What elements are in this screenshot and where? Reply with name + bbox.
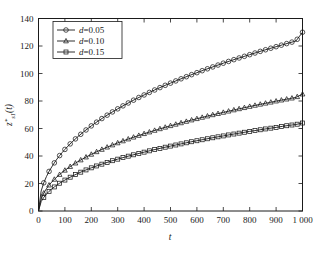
y-tick-label: 40 bbox=[25, 151, 35, 161]
x-tick-label: 0 bbox=[36, 215, 41, 225]
y-tick-label: 140 bbox=[20, 14, 34, 24]
y-label-argument: (t) bbox=[4, 104, 15, 113]
legend-label: d=0.15 bbox=[79, 47, 105, 57]
y-tick-label: 20 bbox=[25, 179, 35, 189]
x-axis-title: t bbox=[169, 232, 172, 242]
x-tick-label: 700 bbox=[217, 215, 231, 225]
chart-legend[interactable]: d=0.05d=0.10d=0.15 bbox=[53, 22, 122, 59]
x-tick-label: 600 bbox=[190, 215, 204, 225]
x-tick-label: 800 bbox=[243, 215, 257, 225]
legend-label: d=0.10 bbox=[79, 36, 105, 46]
y-tick-label: 60 bbox=[25, 124, 35, 134]
x-tick-label: 500 bbox=[164, 215, 178, 225]
line-chart: 020406080100120140 010020030040050060070… bbox=[0, 0, 324, 254]
y-tick-label: 100 bbox=[20, 69, 34, 79]
x-tick-label: 200 bbox=[85, 215, 99, 225]
x-tick-label: 300 bbox=[111, 215, 125, 225]
x-tick-label: 900 bbox=[269, 215, 283, 225]
x-tick-label: 1 000 bbox=[292, 215, 313, 225]
y-tick-label: 120 bbox=[20, 41, 34, 51]
legend-label: d=0.05 bbox=[79, 25, 105, 35]
x-axis-title-text: t bbox=[169, 232, 172, 242]
y-tick-label: 80 bbox=[25, 96, 35, 106]
chart-figure: 020406080100120140 010020030040050060070… bbox=[0, 0, 324, 254]
x-tick-label: 100 bbox=[58, 215, 72, 225]
x-tick-label: 400 bbox=[137, 215, 151, 225]
y-tick-label: 0 bbox=[29, 206, 34, 216]
